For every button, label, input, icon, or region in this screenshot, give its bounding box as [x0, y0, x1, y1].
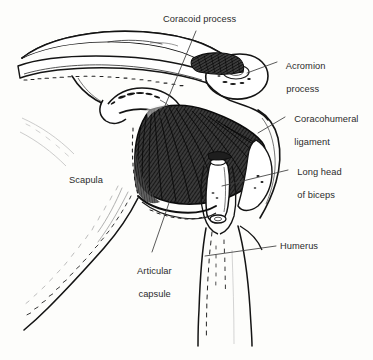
label-long-head-of-biceps-line1: Long head: [297, 167, 341, 177]
label-articular-capsule-line1: Articular: [137, 266, 172, 276]
label-articular-capsule: Articular capsule: [120, 255, 184, 301]
label-coracohumeral-ligament-line1: Coracohumeral: [294, 114, 358, 124]
label-articular-capsule-line2: capsule: [138, 289, 170, 299]
label-coracohumeral-ligament: Coracohumeral ligament: [289, 103, 359, 149]
label-acromion-process-line1: Acromion: [286, 61, 326, 71]
label-coracohumeral-ligament-line2: ligament: [294, 137, 330, 147]
label-long-head-of-biceps: Long head of biceps: [292, 156, 342, 202]
label-acromion-process-line2: process: [286, 84, 319, 94]
label-long-head-of-biceps-line2: of biceps: [297, 190, 335, 200]
label-acromion-process: Acromion process: [281, 50, 325, 96]
label-humerus: Humerus: [280, 241, 318, 252]
label-coracoid-process: Coracoid process: [163, 14, 236, 25]
label-scapula: Scapula: [69, 175, 103, 186]
